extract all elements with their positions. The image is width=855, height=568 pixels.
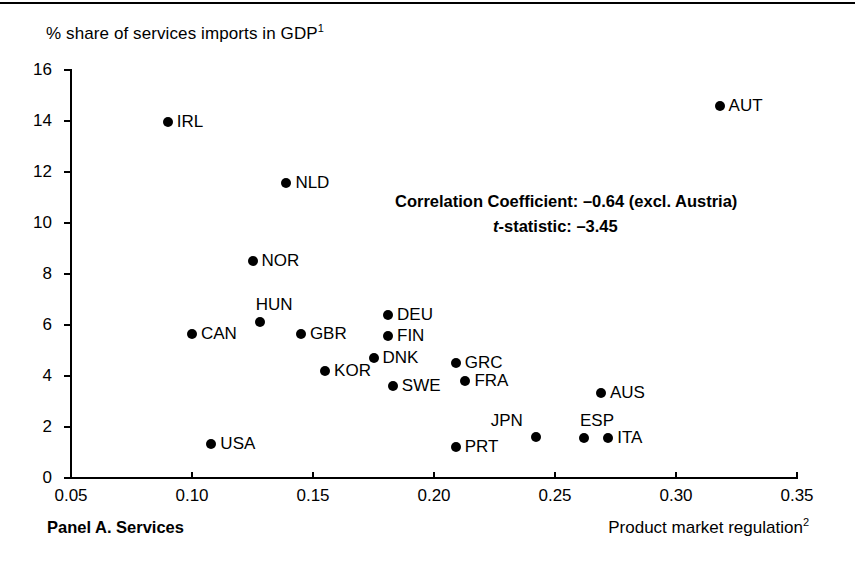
data-point-label: HUN [256, 295, 293, 315]
y-axis-title-text: % share of services imports in GDP [46, 24, 318, 43]
x-tick-label: 0.20 [417, 486, 450, 506]
y-tick-mark [64, 273, 71, 275]
data-point-label: NOR [262, 251, 300, 271]
data-point-marker [460, 376, 470, 386]
y-tick-label: 14 [10, 111, 52, 131]
data-point-marker [206, 439, 216, 449]
data-point-label: JPN [491, 411, 523, 431]
data-point-marker [383, 310, 393, 320]
data-point-marker [255, 317, 265, 327]
data-point-marker [715, 101, 725, 111]
data-point-marker [603, 433, 613, 443]
y-tick-mark [64, 120, 71, 122]
data-point-label: IRL [177, 112, 203, 132]
y-axis-title-footnote: 1 [318, 22, 324, 34]
data-point-label: DNK [383, 348, 419, 368]
x-tick-label: 0.10 [175, 486, 208, 506]
y-tick-label: 6 [10, 315, 52, 335]
data-point-label: AUT [729, 96, 763, 116]
data-point-marker [451, 358, 461, 368]
data-point-label: PRT [465, 437, 499, 457]
data-point-label: CAN [201, 324, 237, 344]
data-point-label: USA [220, 434, 255, 454]
data-point-label: DEU [397, 305, 433, 325]
y-tick-mark [64, 324, 71, 326]
y-tick-label: 2 [10, 417, 52, 437]
y-tick-label: 10 [10, 213, 52, 233]
data-point-label: GBR [310, 324, 347, 344]
data-point-label: KOR [334, 361, 371, 381]
y-tick-label: 0 [10, 468, 52, 488]
y-tick-mark [64, 69, 71, 71]
data-point-marker [296, 329, 306, 339]
y-tick-label: 16 [10, 60, 52, 80]
correlation-annotation: Correlation Coefficient: –0.64 (excl. Au… [395, 192, 737, 211]
data-point-label: NLD [295, 173, 329, 193]
scatter-chart: % share of services imports in GDP1 0246… [0, 0, 855, 568]
y-tick-mark [64, 222, 71, 224]
x-tick-label: 0.30 [659, 486, 692, 506]
y-tick-mark [64, 375, 71, 377]
panel-caption: Panel A. Services [47, 518, 184, 537]
x-tick-label: 0.35 [780, 486, 813, 506]
data-point-marker [531, 432, 541, 442]
x-axis-title-footnote: 2 [803, 516, 809, 528]
data-point-marker [383, 331, 393, 341]
data-point-marker [248, 256, 258, 266]
x-axis-title: Product market regulation2 [608, 518, 809, 538]
x-tick-label: 0.25 [538, 486, 571, 506]
data-point-label: ITA [617, 428, 642, 448]
data-point-marker [388, 381, 398, 391]
y-tick-label: 12 [10, 162, 52, 182]
top-divider-rule [0, 2, 855, 4]
y-tick-mark [64, 426, 71, 428]
t-statistic-annotation: t-statistic: –3.45 [493, 217, 618, 236]
data-point-marker [187, 329, 197, 339]
data-point-label: ESP [580, 411, 614, 431]
data-point-label: AUS [610, 383, 645, 403]
data-point-marker [451, 442, 461, 452]
y-tick-mark [64, 171, 71, 173]
data-point-marker [281, 178, 291, 188]
data-point-marker [596, 388, 606, 398]
x-axis-title-text: Product market regulation [608, 518, 803, 537]
data-point-marker [320, 366, 330, 376]
data-point-label: FRA [474, 371, 508, 391]
x-tick-label: 0.05 [54, 486, 87, 506]
y-axis-title: % share of services imports in GDP1 [46, 24, 324, 44]
data-point-label: FIN [397, 326, 424, 346]
x-tick-label: 0.15 [296, 486, 329, 506]
data-point-label: SWE [402, 376, 441, 396]
y-tick-label: 8 [10, 264, 52, 284]
data-point-marker [579, 433, 589, 443]
data-point-marker [163, 117, 173, 127]
y-tick-label: 4 [10, 366, 52, 386]
